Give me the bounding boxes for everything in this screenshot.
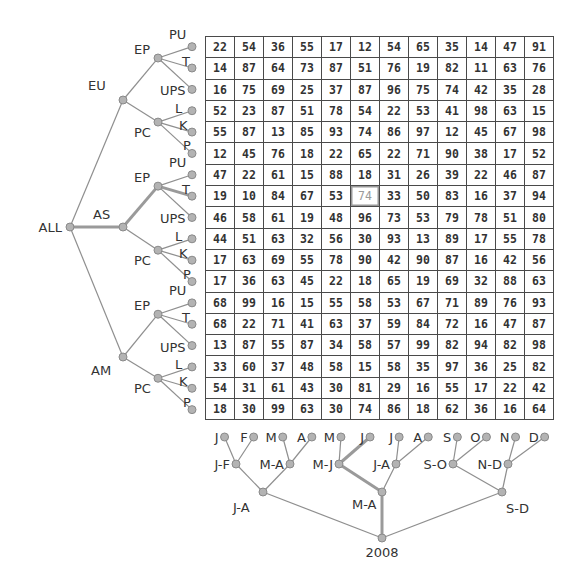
grid-cell[interactable]: 55: [322, 292, 351, 313]
grid-cell[interactable]: 67: [496, 122, 525, 143]
grid-cell[interactable]: 88: [322, 164, 351, 185]
grid-cell[interactable]: 34: [322, 335, 351, 356]
grid-cell[interactable]: 36: [467, 356, 496, 377]
pair-n-d-node[interactable]: [504, 460, 512, 468]
grid-cell[interactable]: 55: [264, 335, 293, 356]
region-am-node[interactable]: [119, 353, 127, 361]
grid-cell[interactable]: 53: [409, 207, 438, 228]
grid-cell[interactable]: 22: [235, 164, 264, 185]
grid-cell[interactable]: 87: [235, 122, 264, 143]
grid-cell[interactable]: 17: [467, 228, 496, 249]
grid-cell[interactable]: 87: [293, 335, 322, 356]
grid-cell[interactable]: 45: [293, 271, 322, 292]
group-ep-node[interactable]: [154, 54, 162, 62]
grid-cell[interactable]: 63: [264, 228, 293, 249]
grid-cell[interactable]: 80: [525, 207, 554, 228]
grid-cell[interactable]: 58: [380, 356, 409, 377]
grid-cell[interactable]: 88: [496, 271, 525, 292]
grid-cell[interactable]: 31: [380, 164, 409, 185]
grid-cell[interactable]: 97: [438, 356, 467, 377]
grid-cell[interactable]: 87: [235, 335, 264, 356]
grid-cell[interactable]: 87: [264, 100, 293, 121]
grid-cell[interactable]: 30: [351, 228, 380, 249]
grid-cell[interactable]: 22: [206, 37, 235, 58]
grid-cell[interactable]: 17: [322, 37, 351, 58]
root-2008-node[interactable]: [378, 534, 386, 542]
grid-cell[interactable]: 44: [206, 228, 235, 249]
grid-cell[interactable]: 45: [235, 143, 264, 164]
grid-cell[interactable]: 19: [293, 207, 322, 228]
grid-cell[interactable]: 17: [467, 377, 496, 398]
grid-cell[interactable]: 61: [264, 207, 293, 228]
grid-cell[interactable]: 18: [206, 399, 235, 420]
grid-cell[interactable]: 54: [351, 100, 380, 121]
grid-cell[interactable]: 82: [438, 335, 467, 356]
grid-cell[interactable]: 84: [409, 313, 438, 334]
half-s-d-node[interactable]: [498, 488, 506, 496]
grid-cell[interactable]: 19: [409, 58, 438, 79]
grid-cell[interactable]: 41: [293, 313, 322, 334]
grid-cell[interactable]: 78: [525, 228, 554, 249]
month-j-node[interactable]: [395, 433, 403, 441]
grid-cell[interactable]: 22: [235, 313, 264, 334]
grid-cell[interactable]: 75: [409, 79, 438, 100]
grid-cell[interactable]: 78: [467, 207, 496, 228]
grid-cell[interactable]: 45: [467, 122, 496, 143]
grid-cell[interactable]: 58: [235, 207, 264, 228]
leaf-ups-node[interactable]: [188, 342, 196, 350]
grid-cell[interactable]: 96: [380, 79, 409, 100]
grid-cell[interactable]: 42: [496, 249, 525, 270]
grid-cell[interactable]: 79: [438, 207, 467, 228]
grid-cell[interactable]: 13: [409, 228, 438, 249]
grid-cell[interactable]: 11: [467, 58, 496, 79]
grid-cell[interactable]: 73: [380, 207, 409, 228]
grid-cell[interactable]: 87: [525, 164, 554, 185]
grid-cell[interactable]: 12: [351, 37, 380, 58]
grid-cell[interactable]: 18: [351, 164, 380, 185]
grid-cell[interactable]: 29: [380, 377, 409, 398]
grid-cell[interactable]: 69: [264, 79, 293, 100]
grid-cell[interactable]: 94: [467, 335, 496, 356]
group-pc-node[interactable]: [154, 118, 162, 126]
grid-cell[interactable]: 99: [409, 335, 438, 356]
month-d-node[interactable]: [541, 433, 549, 441]
leaf-l-node[interactable]: [188, 363, 196, 371]
grid-cell[interactable]: 69: [438, 271, 467, 292]
root-all-node[interactable]: [66, 223, 74, 231]
grid-cell[interactable]: 68: [206, 292, 235, 313]
grid-cell[interactable]: 86: [380, 399, 409, 420]
pair-j-f-node[interactable]: [232, 460, 240, 468]
grid-cell[interactable]: 55: [293, 249, 322, 270]
grid-cell[interactable]: 19: [206, 186, 235, 207]
grid-cell[interactable]: 42: [467, 79, 496, 100]
grid-cell[interactable]: 18: [351, 271, 380, 292]
leaf-l-node[interactable]: [188, 107, 196, 115]
grid-cell[interactable]: 16: [467, 313, 496, 334]
grid-cell[interactable]: 33: [206, 356, 235, 377]
grid-cell[interactable]: 36: [467, 399, 496, 420]
grid-cell[interactable]: 30: [235, 399, 264, 420]
grid-cell[interactable]: 23: [235, 100, 264, 121]
grid-cell[interactable]: 14: [206, 58, 235, 79]
grid-cell[interactable]: 72: [438, 313, 467, 334]
grid-cell[interactable]: 58: [351, 335, 380, 356]
grid-cell[interactable]: 16: [264, 292, 293, 313]
grid-cell[interactable]: 51: [235, 228, 264, 249]
grid-cell[interactable]: 30: [322, 377, 351, 398]
grid-cell[interactable]: 87: [351, 79, 380, 100]
grid-cell[interactable]: 18: [409, 399, 438, 420]
grid-cell[interactable]: 74: [351, 122, 380, 143]
grid-cell[interactable]: 78: [322, 249, 351, 270]
region-eu-node[interactable]: [119, 96, 127, 104]
month-m-node[interactable]: [279, 433, 287, 441]
grid-cell[interactable]: 37: [264, 356, 293, 377]
grid-cell[interactable]: 12: [206, 143, 235, 164]
grid-cell[interactable]: 36: [235, 271, 264, 292]
grid-cell[interactable]: 16: [206, 79, 235, 100]
grid-cell[interactable]: 22: [380, 100, 409, 121]
grid-cell[interactable]: 13: [264, 122, 293, 143]
grid-cell[interactable]: 65: [380, 271, 409, 292]
group-pc-node[interactable]: [154, 374, 162, 382]
grid-cell[interactable]: 90: [351, 249, 380, 270]
grid-cell[interactable]: 86: [380, 122, 409, 143]
